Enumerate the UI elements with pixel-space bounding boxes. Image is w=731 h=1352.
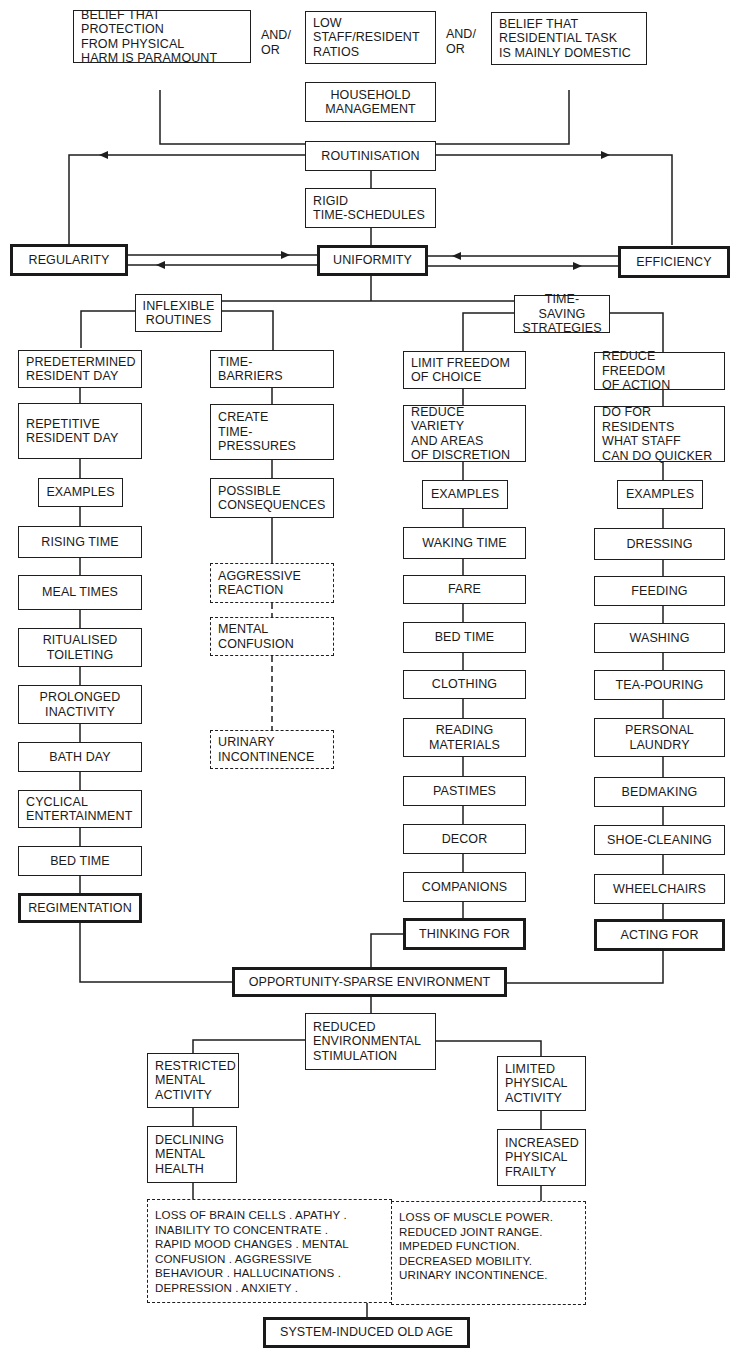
col4-shoe-cleaning-label: SHOE-CLEANING [607, 833, 712, 848]
col3-reading-materials-box: READING MATERIALS [403, 718, 526, 757]
col3-waking-time-label: WAKING TIME [422, 536, 506, 551]
declining-mental-health-label: DECLINING MENTAL HEALTH [155, 1133, 224, 1177]
reduced-stimulation-box: REDUCED ENVIRONMENTAL STIMULATION [305, 1013, 436, 1070]
cause-protection-box: BELIEF THAT PROTECTION FROM PHYSICAL HAR… [73, 10, 251, 63]
col4-feeding-label: FEEDING [631, 584, 687, 599]
connector [81, 311, 136, 348]
col1-ritualised-toileting-box: RITUALISED TOILETING [18, 628, 142, 667]
flow-diagram: BELIEF THAT PROTECTION FROM PHYSICAL HAR… [0, 0, 731, 1352]
regimentation-box: REGIMENTATION [18, 893, 142, 923]
increased-physical-frailty-label: INCREASED PHYSICAL FRAILTY [505, 1136, 579, 1180]
col3-pastimes-label: PASTIMES [433, 784, 496, 799]
col1-ritualised-toileting-label: RITUALISED TOILETING [43, 633, 118, 662]
col1-bed-time-label: BED TIME [50, 854, 110, 869]
consequence-aggressive-reaction-box: AGGRESSIVE REACTION [210, 563, 334, 603]
col2-possible-consequences-label: POSSIBLE CONSEQUENCES [218, 484, 325, 513]
connector [80, 921, 233, 982]
col4-tea-pouring-label: TEA-POURING [616, 678, 704, 693]
arrowhead [452, 252, 461, 260]
col3-clothing-label: CLOTHING [432, 677, 497, 692]
col3-companions-box: COMPANIONS [403, 872, 526, 902]
connector [463, 313, 516, 351]
col1-bath-day-label: BATH DAY [49, 750, 110, 765]
col3-reading-materials-label: READING MATERIALS [429, 723, 500, 752]
cause-ratios-label: LOW STAFF/RESIDENT RATIOS [313, 16, 420, 60]
routinisation-box: ROUTINISATION [305, 141, 436, 171]
efficiency-label: EFFICIENCY [636, 255, 711, 270]
connector [436, 1041, 541, 1056]
col3-clothing-box: CLOTHING [403, 670, 526, 699]
household-management-box: HOUSEHOLD MANAGEMENT [305, 82, 436, 122]
consequence-aggressive-reaction-label: AGGRESSIVE REACTION [218, 569, 301, 598]
cause-ratios-box: LOW STAFF/RESIDENT RATIOS [305, 11, 436, 64]
physical-symptoms-box: LOSS OF MUSCLE POWER. REDUCED JOINT RANG… [391, 1201, 586, 1305]
connector [193, 1040, 305, 1053]
restricted-mental-activity-label: RESTRICTED MENTAL ACTIVITY [155, 1059, 236, 1103]
regularity-label: REGULARITY [29, 253, 110, 268]
col4-bedmaking-label: BEDMAKING [622, 785, 698, 800]
reduced-stimulation-label: REDUCED ENVIRONMENTAL STIMULATION [313, 1020, 421, 1064]
arrowhead [99, 151, 108, 159]
col1-bath-day-box: BATH DAY [18, 742, 142, 772]
col3-decor-box: DECOR [403, 824, 526, 854]
connector [610, 313, 663, 352]
cause-domestic-box: BELIEF THAT RESIDENTIAL TASK IS MAINLY D… [491, 12, 647, 65]
col1-predetermined-resident-day-box: PREDETERMINED RESIDENT DAY [18, 350, 142, 388]
col2-possible-consequences-box: POSSIBLE CONSEQUENCES [210, 478, 334, 518]
col3-waking-time-box: WAKING TIME [403, 527, 526, 559]
col4-do-for-residents-what-staff-can-do-quicker-label: DO FOR RESIDENTS WHAT STAFF CAN DO QUICK… [602, 405, 717, 463]
col4-reduce-freedom-of-action-box: REDUCE FREEDOM OF ACTION [594, 352, 725, 390]
col4-dressing-box: DRESSING [594, 528, 725, 560]
col3-reduce-variety-and-areas-of-discretion-label: REDUCE VARIETY AND AREAS OF DISCRETION [411, 405, 518, 463]
col4-feeding-box: FEEDING [594, 576, 725, 606]
col4-examples-label: EXAMPLES [626, 487, 694, 502]
connector [69, 155, 305, 245]
col1-meal-times-label: MEAL TIMES [42, 585, 118, 600]
efficiency-box: EFFICIENCY [618, 246, 730, 278]
arrowhead [601, 151, 610, 159]
connector [371, 934, 403, 968]
col4-personal-laundry-box: PERSONAL LAUNDRY [594, 718, 725, 757]
col1-repetitive-resident-day-box: REPETITIVE RESIDENT DAY [18, 403, 142, 459]
acting-for-label: ACTING FOR [620, 928, 698, 943]
col4-examples-box: EXAMPLES [617, 480, 703, 509]
thinking-for-box: THINKING FOR [403, 918, 526, 950]
connector [221, 311, 273, 351]
time-saving-strategies-label: TIME-SAVING STRATEGIES [522, 292, 602, 336]
col1-rising-time-label: RISING TIME [41, 535, 118, 550]
consequence-mental-confusion-box: MENTAL CONFUSION [210, 617, 334, 656]
col4-reduce-freedom-of-action-label: REDUCE FREEDOM OF ACTION [602, 349, 717, 393]
rigid-time-schedules-label: RIGID TIME-SCHEDULES [313, 194, 425, 223]
col4-do-for-residents-what-staff-can-do-quicker-box: DO FOR RESIDENTS WHAT STAFF CAN DO QUICK… [594, 406, 725, 462]
system-induced-old-age-label: SYSTEM-INDUCED OLD AGE [280, 1325, 453, 1340]
inflexible-routines-box: INFLEXIBLE ROUTINES [135, 294, 222, 332]
col3-bed-time-box: BED TIME [403, 622, 526, 653]
uniformity-label: UNIFORMITY [333, 253, 412, 268]
col4-washing-box: WASHING [594, 623, 725, 653]
consequence-urinary-incontinence-box: URINARY INCONTINENCE [210, 730, 334, 769]
col3-fare-box: FARE [403, 575, 526, 604]
cause-domestic-label: BELIEF THAT RESIDENTIAL TASK IS MAINLY D… [499, 17, 631, 61]
col4-dressing-label: DRESSING [626, 537, 692, 552]
col2-create-time-pressures-label: CREATE TIME-PRESSURES [218, 410, 326, 454]
consequence-urinary-incontinence-label: URINARY INCONTINENCE [218, 735, 314, 764]
col2-time-barriers-label: TIME- BARRIERS [218, 355, 283, 384]
col2-create-time-pressures-box: CREATE TIME-PRESSURES [210, 404, 334, 460]
col1-predetermined-resident-day-label: PREDETERMINED RESIDENT DAY [26, 355, 136, 384]
limited-physical-activity-box: LIMITED PHYSICAL ACTIVITY [497, 1056, 586, 1111]
col4-washing-label: WASHING [630, 631, 690, 646]
col4-shoe-cleaning-box: SHOE-CLEANING [594, 825, 725, 855]
connector [436, 90, 569, 144]
limited-physical-activity-label: LIMITED PHYSICAL ACTIVITY [505, 1062, 568, 1106]
col3-examples-box: EXAMPLES [422, 480, 508, 509]
col1-bed-time-box: BED TIME [18, 846, 142, 876]
col3-bed-time-label: BED TIME [435, 630, 495, 645]
col1-examples-label: EXAMPLES [46, 485, 114, 500]
increased-physical-frailty-box: INCREASED PHYSICAL FRAILTY [497, 1129, 586, 1186]
connector [436, 155, 672, 245]
col2-time-barriers-box: TIME- BARRIERS [210, 350, 334, 388]
physical-symptoms-text: LOSS OF MUSCLE POWER. REDUCED JOINT RANG… [399, 1210, 553, 1283]
connector [506, 947, 663, 983]
col3-decor-label: DECOR [442, 832, 488, 847]
col3-examples-label: EXAMPLES [431, 487, 499, 502]
